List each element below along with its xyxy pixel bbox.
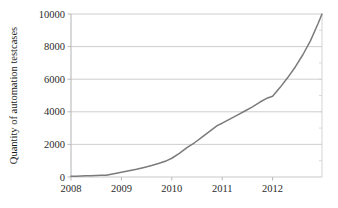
line-chart: 0200040006000800010000 20082009201020112… bbox=[0, 0, 338, 208]
x-tick-label-2009: 2009 bbox=[111, 183, 132, 194]
y-tick-label-8000: 8000 bbox=[44, 41, 65, 52]
y-tick-label-2000: 2000 bbox=[44, 139, 65, 150]
y-tick-label-10000: 10000 bbox=[39, 9, 65, 20]
x-axis-tick-labels: 20082009201020112012 bbox=[61, 183, 284, 194]
data-series-group bbox=[71, 14, 322, 176]
y-tick-label-6000: 6000 bbox=[44, 74, 65, 85]
y-axis-title-text: Quantity of automation testcases bbox=[8, 27, 19, 164]
y-tick-label-0: 0 bbox=[60, 172, 65, 183]
gridlines-group bbox=[71, 14, 322, 177]
x-tick-label-2008: 2008 bbox=[61, 183, 82, 194]
x-tick-label-2011: 2011 bbox=[212, 183, 233, 194]
chart-container: 0200040006000800010000 20082009201020112… bbox=[0, 0, 338, 208]
y-axis-title: Quantity of automation testcases bbox=[8, 27, 19, 164]
x-axis-ticks bbox=[71, 177, 273, 181]
y-tick-label-4000: 4000 bbox=[44, 106, 65, 117]
x-tick-label-2012: 2012 bbox=[262, 183, 283, 194]
series-line-0 bbox=[71, 14, 322, 176]
y-axis-tick-labels: 0200040006000800010000 bbox=[39, 9, 65, 183]
x-tick-label-2010: 2010 bbox=[161, 183, 182, 194]
